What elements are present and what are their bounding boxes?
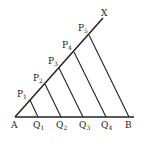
label-b: B: [125, 120, 132, 130]
label-q2: Q2: [56, 120, 67, 131]
label-p2: P2: [33, 73, 43, 84]
label-p4: P4: [62, 40, 72, 51]
label-p3: P3: [48, 56, 58, 67]
label-q3: Q3: [79, 120, 90, 131]
geometry-diagram: A B X P1 P2 P3 P4 P5 Q1 Q2 Q3 Q4: [0, 0, 145, 145]
label-p1: P1: [17, 89, 27, 100]
label-q4: Q4: [101, 120, 112, 131]
parallel-p2-q2: [45, 84, 61, 117]
parallel-p5-b: [89, 35, 129, 117]
label-q1: Q1: [33, 120, 44, 131]
parallel-p1-q1: [30, 100, 38, 117]
ray-ax: [15, 18, 103, 117]
parallel-p3-q3: [59, 68, 83, 117]
label-a: A: [10, 120, 18, 130]
label-p5: P5: [78, 23, 88, 34]
label-x: X: [101, 8, 108, 18]
diagram-svg: A B X P1 P2 P3 P4 P5 Q1 Q2 Q3 Q4: [0, 0, 145, 145]
